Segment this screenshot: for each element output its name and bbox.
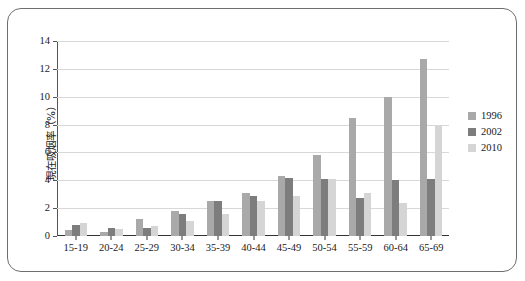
bar-2010-55-59	[364, 193, 372, 236]
bar-2002-40-44	[250, 196, 258, 236]
bar-2010-15-19	[80, 223, 88, 236]
x-tick-label: 20-24	[99, 243, 124, 254]
y-tick-mark	[53, 236, 57, 237]
y-tick-label: 8	[45, 119, 50, 130]
legend-item-2002[interactable]: 2002	[468, 124, 502, 140]
bar-group: 35-39	[200, 41, 236, 236]
bar-2010-40-44	[257, 201, 265, 236]
legend-label: 2010	[481, 143, 502, 154]
bar-2002-50-54	[321, 179, 329, 236]
x-tick-label: 25-29	[135, 243, 160, 254]
x-tick-mark	[253, 236, 254, 240]
x-tick-label: 65-69	[419, 243, 444, 254]
bar-2002-30-34	[179, 214, 187, 236]
y-tick-mark	[53, 180, 57, 181]
x-tick-mark	[289, 236, 290, 240]
x-tick-label: 40-44	[241, 243, 266, 254]
bar-group: 45-49	[271, 41, 307, 236]
legend-swatch-icon	[468, 144, 476, 152]
x-tick-label: 30-34	[170, 243, 195, 254]
x-tick-mark	[360, 236, 361, 240]
x-tick-label: 45-49	[277, 243, 302, 254]
bars-layer: 15-1920-2425-2930-3435-3940-4445-4950-54…	[58, 41, 449, 236]
y-tick-label: 2	[45, 203, 50, 214]
y-tick-mark	[53, 152, 57, 153]
y-tick-label: 14	[40, 36, 51, 47]
bar-2010-25-29	[151, 226, 159, 236]
bar-2010-30-34	[186, 221, 194, 236]
x-tick-mark	[146, 236, 147, 240]
bar-group: 65-69	[413, 41, 449, 236]
bar-2002-15-19	[72, 225, 80, 236]
x-tick-mark	[431, 236, 432, 240]
y-tick-mark	[53, 208, 57, 209]
bar-group: 60-64	[378, 41, 414, 236]
legend-swatch-icon	[468, 128, 476, 136]
bar-2002-65-69	[427, 179, 435, 236]
plot-region: 02468101214 15-1920-2425-2930-3435-3940-…	[57, 41, 449, 236]
legend-item-2010[interactable]: 2010	[468, 140, 502, 156]
y-tick-mark	[53, 69, 57, 70]
chart-legend: 199620022010	[468, 108, 502, 156]
y-tick-label: 0	[45, 231, 50, 242]
bar-group: 20-24	[94, 41, 130, 236]
bar-group: 25-29	[129, 41, 165, 236]
bar-group: 15-19	[58, 41, 94, 236]
bar-2010-60-64	[399, 203, 407, 236]
y-tick-mark	[53, 125, 57, 126]
bar-2002-45-49	[285, 178, 293, 237]
bar-2002-35-39	[214, 201, 222, 236]
bar-1996-50-54	[313, 155, 321, 236]
legend-label: 1996	[481, 111, 502, 122]
x-tick-mark	[182, 236, 183, 240]
bar-2002-20-24	[108, 228, 116, 236]
bar-1996-30-34	[171, 211, 179, 236]
x-tick-label: 35-39	[206, 243, 231, 254]
x-tick-label: 15-19	[64, 243, 89, 254]
x-tick-label: 50-54	[312, 243, 337, 254]
bar-group: 30-34	[165, 41, 201, 236]
x-tick-mark	[395, 236, 396, 240]
bar-2010-45-49	[293, 196, 301, 236]
bar-1996-35-39	[207, 201, 215, 236]
bar-group: 50-54	[307, 41, 343, 236]
bar-2002-60-64	[392, 180, 400, 236]
bar-2010-65-69	[435, 126, 443, 236]
bar-group: 40-44	[236, 41, 272, 236]
legend-swatch-icon	[468, 112, 476, 120]
bar-1996-55-59	[349, 118, 357, 236]
x-tick-mark	[75, 236, 76, 240]
x-tick-label: 60-64	[383, 243, 408, 254]
bar-1996-40-44	[242, 193, 250, 236]
bar-2010-20-24	[115, 229, 123, 236]
x-tick-mark	[217, 236, 218, 240]
bar-2010-50-54	[328, 179, 336, 236]
bar-1996-60-64	[384, 97, 392, 236]
y-tick-mark	[53, 41, 57, 42]
x-tick-label: 55-59	[348, 243, 373, 254]
y-tick-label: 10	[40, 91, 51, 102]
bar-2010-35-39	[222, 214, 230, 236]
x-tick-mark	[111, 236, 112, 240]
x-tick-mark	[324, 236, 325, 240]
y-tick-label: 12	[40, 64, 51, 75]
y-tick-label: 4	[45, 175, 50, 186]
legend-item-1996[interactable]: 1996	[468, 108, 502, 124]
bar-2002-25-29	[143, 228, 151, 236]
bar-1996-25-29	[136, 219, 144, 236]
bar-2002-55-59	[356, 198, 364, 236]
bar-1996-15-19	[65, 230, 73, 236]
chart-figure: 現在吸烟率（%） 02468101214 15-1920-2425-2930-3…	[0, 0, 525, 281]
bar-1996-65-69	[420, 59, 428, 236]
legend-label: 2002	[481, 127, 502, 138]
y-tick-label: 6	[45, 147, 50, 158]
bar-group: 55-59	[342, 41, 378, 236]
y-tick-mark	[53, 97, 57, 98]
bar-1996-45-49	[278, 176, 286, 236]
bar-1996-20-24	[100, 232, 108, 236]
